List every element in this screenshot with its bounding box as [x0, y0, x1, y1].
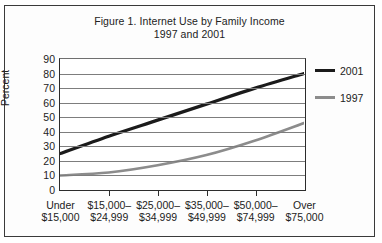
y-axis-tick-70: 70: [33, 82, 55, 94]
gridline-60: [60, 103, 305, 104]
gridline-70: [60, 88, 305, 89]
y-axis-tick-20: 20: [33, 155, 55, 167]
legend-swatch-2001: [315, 69, 335, 72]
gridline-20: [60, 161, 305, 162]
data-series-layer: [60, 59, 304, 190]
y-axis-tick-80: 80: [33, 68, 55, 80]
legend-label-1997: 1997: [340, 92, 363, 104]
y-axis-tick-90: 90: [33, 53, 55, 65]
legend-item-1997[interactable]: 1997: [315, 91, 377, 104]
y-axis-tick-60: 60: [33, 97, 55, 109]
gridline-10: [60, 175, 305, 176]
x-axis-ticks: [59, 191, 306, 197]
legend-item-2001[interactable]: 2001: [315, 64, 377, 77]
x-axis-label-5-line-2: $75,000: [272, 211, 338, 223]
y-axis-tick-30: 30: [33, 140, 55, 152]
gridline-50: [60, 117, 305, 118]
x-axis-label-5: Over$75,000: [272, 199, 338, 223]
chart-legend: 20011997: [315, 64, 377, 118]
gridline-40: [60, 132, 305, 133]
y-axis-tick-40: 40: [33, 126, 55, 138]
gridline-30: [60, 146, 305, 147]
x-axis-tick-2: [158, 191, 159, 196]
chart-title: Figure 1. Internet Use by Family Income …: [5, 15, 374, 40]
legend-label-2001: 2001: [340, 65, 363, 77]
gridline-80: [60, 74, 305, 75]
y-axis-tick-labels: 9080706050403020100: [31, 58, 55, 191]
x-axis-label-5-line-1: Over: [272, 199, 338, 211]
legend-swatch-1997: [315, 96, 335, 99]
y-axis-title: Percent: [0, 70, 11, 106]
y-axis-tick-0: 0: [33, 184, 55, 196]
y-axis-tick-10: 10: [33, 169, 55, 181]
series-line-2001: [60, 74, 304, 154]
x-axis-tick-3: [207, 191, 208, 196]
chart-title-line-1: Figure 1. Internet Use by Family Income: [5, 15, 374, 28]
figure-border: Figure 1. Internet Use by Family Income …: [4, 5, 375, 237]
x-axis-tick-4: [256, 191, 257, 196]
x-axis-tick-1: [109, 191, 110, 196]
chart-title-line-2: 1997 and 2001: [5, 28, 374, 41]
x-axis-tick-labels: Under$15,000$15,000–$24,999$25,000–$34,9…: [59, 199, 306, 227]
plot-area: [59, 58, 306, 191]
y-axis-tick-50: 50: [33, 111, 55, 123]
